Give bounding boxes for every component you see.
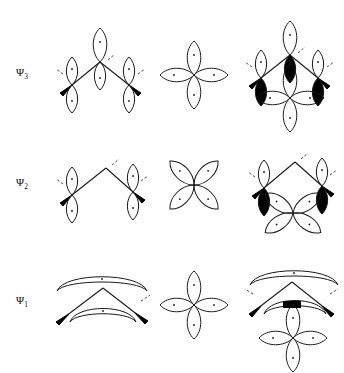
row-psi3-group xyxy=(56,21,334,132)
row-psi1-group xyxy=(56,271,338,372)
psi3-center-p-orbital xyxy=(93,28,107,90)
psi1-overlap-center-cross xyxy=(259,304,327,372)
psi3-left-p-orbital xyxy=(66,57,77,113)
psi3-sigma-framework xyxy=(56,28,145,113)
psi2-combined-overlap xyxy=(248,153,337,238)
psi1-p-orbital-set xyxy=(160,271,228,339)
psi2-left-p-orbital xyxy=(66,167,77,223)
psi1-delocalized-arcs xyxy=(56,277,150,325)
psi3-combined-overlap xyxy=(245,21,334,132)
psi2-right-p-orbital xyxy=(127,164,138,220)
orbital-canvas xyxy=(0,0,344,373)
row-psi2-group xyxy=(56,153,337,238)
orbital-diagram-figure: Ψ3 Ψ2 Ψ1 xyxy=(0,0,344,373)
psi1-combined-overlap xyxy=(245,271,338,372)
psi3-right-p-orbital xyxy=(123,57,134,113)
psi3-p-orbital-set xyxy=(160,41,228,109)
psi2-p-orbital-set xyxy=(165,156,223,214)
psi2-overlap-center-cross xyxy=(261,188,324,238)
psi2-sigma-framework xyxy=(56,159,148,223)
